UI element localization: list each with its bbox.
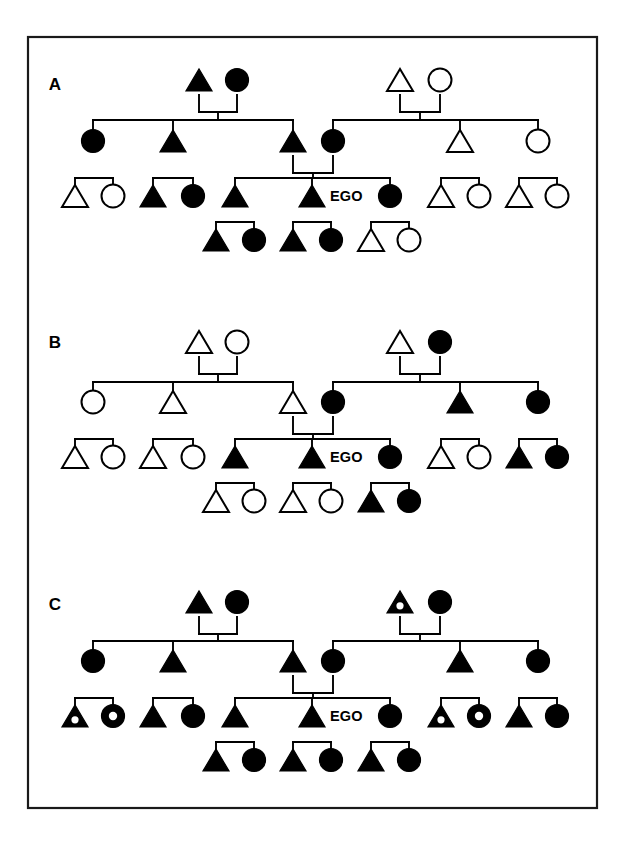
pedigree-canvas: AEGOBEGOCEGO [0,0,624,841]
affected-circle-icon [182,705,205,728]
affected-circle-icon [322,130,345,153]
unaffected-circle-icon [243,490,266,513]
affected-circle-icon [82,650,105,673]
affected-circle-icon [429,331,452,354]
affected-circle-icon [322,391,345,414]
carrier-circle-icon [102,705,125,728]
affected-circle-icon [226,69,249,92]
affected-circle-icon [82,130,105,153]
affected-circle-icon [320,749,343,772]
unaffected-circle-icon [398,229,421,252]
affected-circle-icon [379,446,402,469]
carrier-circle-icon [468,705,491,728]
unaffected-circle-icon [468,185,491,208]
affected-circle-icon [527,391,550,414]
affected-circle-icon [429,591,452,614]
unaffected-circle-icon [527,130,550,153]
carrier-dot [475,712,483,720]
carrier-dot [396,602,403,609]
panel-label-b: B [49,333,61,352]
unaffected-circle-icon [429,69,452,92]
affected-circle-icon [379,185,402,208]
carrier-dot [437,716,444,723]
ego-label-b: EGO [330,449,363,465]
unaffected-circle-icon [320,490,343,513]
panel-label-c: C [49,595,61,614]
pedigree-figure: AEGOBEGOCEGO [0,0,624,841]
affected-circle-icon [398,490,421,513]
unaffected-circle-icon [102,185,125,208]
carrier-dot [71,716,78,723]
affected-circle-icon [226,591,249,614]
affected-circle-icon [243,749,266,772]
ego-label-c: EGO [330,708,363,724]
unaffected-circle-icon [182,446,205,469]
affected-circle-icon [398,749,421,772]
affected-circle-icon [320,229,343,252]
affected-circle-icon [322,650,345,673]
unaffected-circle-icon [468,446,491,469]
carrier-dot [109,712,117,720]
affected-circle-icon [379,705,402,728]
panel-label-a: A [49,75,61,94]
affected-circle-icon [546,446,569,469]
affected-circle-icon [546,705,569,728]
affected-circle-icon [527,650,550,673]
unaffected-circle-icon [102,446,125,469]
affected-circle-icon [243,229,266,252]
unaffected-circle-icon [226,331,249,354]
unaffected-circle-icon [82,391,105,414]
affected-circle-icon [182,185,205,208]
ego-label-a: EGO [330,188,363,204]
unaffected-circle-icon [546,185,569,208]
